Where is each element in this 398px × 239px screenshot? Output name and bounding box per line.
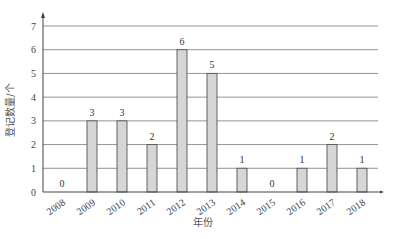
x-axis-label: 年份 [193, 216, 213, 228]
x-tick-label: 2012 [164, 197, 187, 217]
y-tick-label: 0 [31, 187, 36, 198]
bar [297, 168, 307, 192]
y-tick-label: 5 [31, 68, 36, 79]
y-axis-label: 登记数量/个 [4, 83, 16, 136]
data-label: 0 [60, 178, 65, 189]
bar [117, 121, 127, 192]
data-label: 5 [210, 59, 215, 70]
bar [147, 145, 157, 192]
x-tick-label: 2014 [224, 197, 247, 217]
data-label: 1 [300, 154, 305, 165]
y-tick-label: 4 [31, 92, 36, 103]
bar [357, 168, 367, 192]
x-tick-label: 2010 [104, 197, 127, 217]
x-axis-arrow-icon [380, 191, 384, 194]
y-tick-label: 2 [31, 139, 36, 150]
y-tick-label: 3 [31, 115, 36, 126]
x-tick-label: 2008 [44, 197, 67, 217]
bar [327, 145, 337, 192]
y-tick-labels: 01234567 [31, 21, 36, 198]
bar [177, 50, 187, 192]
x-tick-label: 2009 [74, 197, 97, 217]
y-tick-label: 7 [31, 21, 36, 32]
bar [207, 73, 217, 192]
bar-chart: 01234567 2008200920102011201220132014201… [0, 0, 398, 239]
y-axis-arrow-icon [41, 12, 45, 18]
y-tick-label: 1 [31, 163, 36, 174]
x-tick-label: 2015 [254, 197, 277, 217]
x-tick-label: 2011 [135, 197, 157, 217]
data-label: 3 [120, 107, 125, 118]
data-label: 3 [90, 107, 95, 118]
data-label: 1 [360, 154, 365, 165]
data-label: 0 [270, 178, 275, 189]
bar [237, 168, 247, 192]
data-label: 1 [240, 154, 245, 165]
x-tick-label: 2016 [284, 197, 307, 217]
x-tick-label: 2017 [314, 197, 337, 217]
data-label: 2 [330, 131, 335, 142]
y-tick-label: 6 [31, 44, 36, 55]
x-tick-labels: 2008200920102011201220132014201520162017… [44, 197, 367, 217]
bar [87, 121, 97, 192]
x-tick-label: 2013 [194, 197, 217, 217]
data-label: 2 [150, 131, 155, 142]
data-label: 6 [180, 36, 185, 47]
x-tick-label: 2018 [344, 197, 367, 217]
